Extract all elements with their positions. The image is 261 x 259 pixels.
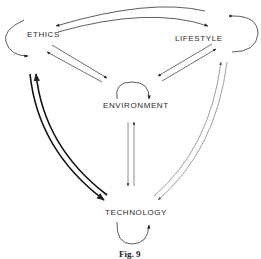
self-loop-environment [117, 82, 149, 99]
edge-ethics-environment [47, 45, 107, 82]
edge-ethics-technology [30, 74, 107, 200]
edge-lifestyle-technology [154, 62, 227, 200]
self-loop-ethics [5, 20, 28, 56]
edge-ethics-lifestyle [56, 7, 208, 32]
node-ethics: ETHICS [27, 30, 60, 39]
figure-caption: Fig. 9 [119, 249, 141, 259]
node-lifestyle: LIFESTYLE [175, 34, 223, 43]
edge-environment-technology [128, 122, 134, 186]
self-loop-lifestyle [232, 16, 258, 52]
node-environment: ENVIRONMENT [103, 101, 169, 110]
self-loop-technology [117, 222, 149, 244]
node-technology: TECHNOLOGY [105, 208, 167, 217]
edge-lifestyle-environment [158, 44, 216, 81]
